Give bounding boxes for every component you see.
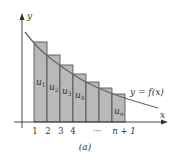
caption: (a) <box>79 142 92 152</box>
y-axis-arrow-icon <box>20 13 25 20</box>
x-axis-arrow-icon <box>161 120 168 125</box>
x-axis-label: x <box>160 110 165 120</box>
rectangles <box>34 42 125 122</box>
tick-3: 3 <box>58 126 63 136</box>
y-axis-label: y <box>26 11 33 21</box>
tick-1: 1 <box>32 126 37 136</box>
integral-test-diagram: y x y = f(x) u1 u2 u3 u4 un 1 2 3 4 ··· … <box>0 0 177 160</box>
tick-n-plus-1: n + 1 <box>112 126 135 136</box>
tick-4: 4 <box>70 126 75 136</box>
curve-label: y = f(x) <box>129 87 164 97</box>
tick-labels: 1 2 3 4 ··· n + 1 <box>32 126 135 136</box>
tick-2: 2 <box>45 126 50 136</box>
tick-ellipsis: ··· <box>93 126 101 136</box>
